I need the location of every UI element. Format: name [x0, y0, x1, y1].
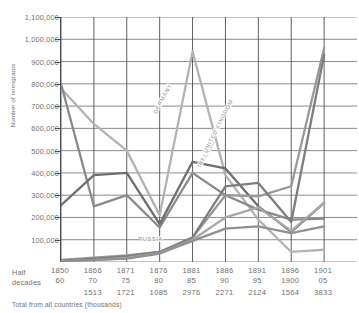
x-period-total: 3833	[302, 288, 344, 297]
y-axis-tick	[55, 128, 61, 129]
y-axis-tick	[55, 84, 61, 85]
y-axis-tick	[55, 195, 61, 196]
series-label-russia: RUSSIA	[138, 236, 163, 242]
y-axis-tick	[55, 17, 61, 18]
y-axis-tick	[55, 173, 61, 174]
y-axis-tick-labels: 1,100,0001,000,000900,000800,000700,0006…	[12, 0, 59, 268]
y-axis-tick	[55, 151, 61, 152]
totals-footnote: Total from all countries (thousands)	[12, 301, 122, 308]
immigration-line-chart: Number of immigrants 1,100,0001,000,0009…	[0, 0, 359, 313]
x-axis-column: 190105	[302, 266, 344, 285]
x-axis-row1-label: Half	[12, 268, 26, 277]
y-axis-tick	[55, 62, 61, 63]
y-axis-tick	[55, 240, 61, 241]
y-axis-tick	[55, 39, 61, 40]
x-period-start: 1901	[302, 266, 344, 276]
y-tick-label: 1,000,000	[25, 35, 59, 44]
y-tick-label: 1,100,000	[25, 13, 59, 22]
y-axis-tick	[55, 217, 61, 218]
x-axis-row2-label: decades	[12, 278, 41, 287]
x-period-end: 05	[302, 276, 344, 286]
y-axis-tick	[55, 106, 61, 107]
